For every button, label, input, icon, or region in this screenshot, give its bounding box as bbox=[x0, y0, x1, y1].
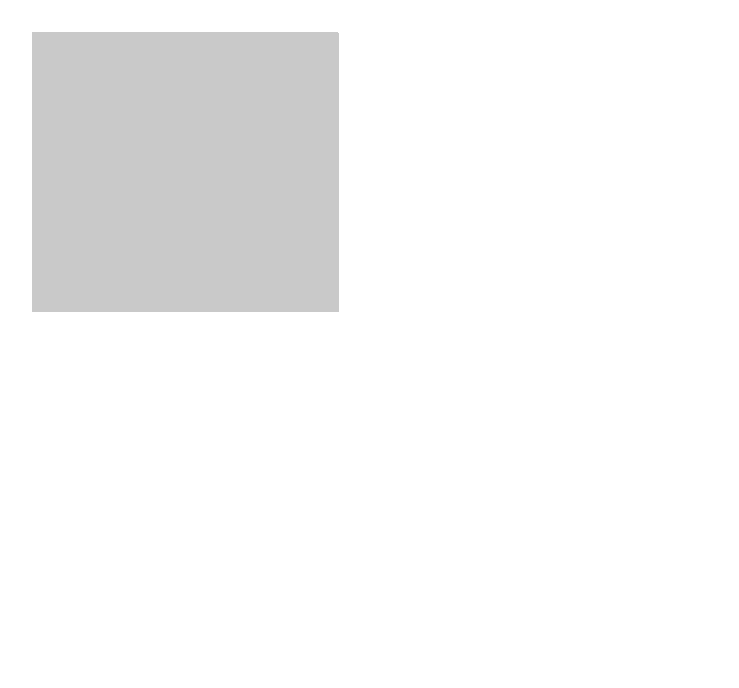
telescope-diagram bbox=[0, 0, 739, 688]
background-panel bbox=[33, 33, 339, 312]
